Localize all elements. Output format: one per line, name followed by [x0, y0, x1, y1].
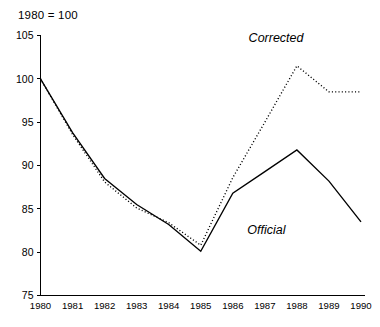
chart-container: 1980 = 100 1051009590858075 198019811982… [0, 0, 380, 327]
x-axis-tick-label: 1980 [30, 300, 51, 311]
series-label-official: Official [247, 223, 286, 237]
x-axis-tick-label: 1981 [62, 300, 83, 311]
y-axis-tick-label: 100 [16, 73, 34, 85]
y-axis-tick-label: 105 [16, 29, 34, 41]
x-axis-tick-label: 1983 [126, 300, 147, 311]
y-axis-tick-label: 80 [22, 246, 34, 258]
series-annotation-group: CorrectedOfficial [247, 31, 304, 237]
x-axis-tick-label: 1989 [318, 300, 339, 311]
x-axis-tick-label: 1982 [94, 300, 115, 311]
y-axis-tick-label: 95 [22, 116, 34, 128]
x-axis-tick-label: 1986 [222, 300, 243, 311]
x-axis-tick-label: 1985 [190, 300, 211, 311]
series-line-official [41, 79, 362, 251]
x-axis-tick-label: 1984 [158, 300, 180, 311]
x-axis-tick-label: 1990 [350, 300, 371, 311]
y-axis-tick-group: 1051009590858075 [16, 29, 41, 301]
series-label-corrected: Corrected [249, 31, 305, 45]
line-chart-plot: 1051009590858075 19801981198219831984198… [0, 0, 380, 327]
x-axis-tick-label: 1987 [254, 300, 275, 311]
x-axis-tick-group: 1980198119821983198419851986198719881989… [30, 300, 372, 311]
y-axis-tick-label: 85 [22, 203, 34, 215]
x-axis-tick-label: 1988 [286, 300, 307, 311]
y-axis-tick-label: 90 [22, 159, 34, 171]
